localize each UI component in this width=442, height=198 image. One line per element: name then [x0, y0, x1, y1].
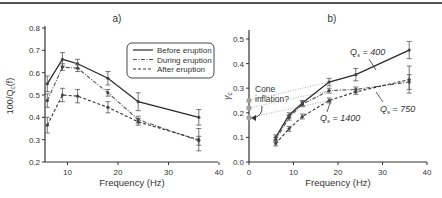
series-line [276, 50, 410, 137]
data-point-marker [301, 115, 304, 118]
annotation-q750: Qs = 750 [376, 92, 415, 115]
q1400-label: Qs = 1400 [320, 113, 360, 124]
data-point-marker [137, 120, 140, 123]
chart-b: b) 0.00.10.20.30.40.5 010203040 Frequenc… [222, 13, 432, 188]
y-tick-label: 0.6 [29, 69, 41, 78]
x-tick-label: 0 [247, 168, 252, 177]
y-tick-label: 0.3 [29, 136, 41, 145]
x-tick-label: 40 [423, 168, 432, 177]
data-point-marker [354, 73, 357, 76]
data-point-marker [46, 124, 49, 127]
data-point-marker [106, 91, 109, 94]
y-tick-label: 0.2 [29, 158, 41, 167]
chart-b-title: b) [328, 13, 337, 24]
data-point-marker [287, 127, 290, 130]
chart-a-legend: Before eruption During eruption After er… [127, 43, 214, 78]
y-tick-label: 0.3 [233, 84, 245, 93]
data-point-marker [328, 89, 331, 92]
data-point-marker [301, 103, 304, 106]
data-point-marker [46, 99, 49, 102]
chart-a-title: a) [113, 13, 122, 24]
x-tick-label: 30 [378, 168, 387, 177]
annotation-cone-inflation: Cone inflation? [251, 84, 289, 121]
chart-b-y-label: γc [222, 91, 233, 100]
y-tick-label: 0.1 [233, 133, 245, 142]
data-point-marker [287, 116, 290, 119]
y-tick-label: 0.5 [233, 35, 245, 44]
legend-during-label: During eruption [157, 56, 212, 65]
figure-canvas: a) 0.20.30.40.50.60.70.8 10203040 Freque… [0, 0, 442, 198]
data-point-marker [137, 100, 140, 103]
intercept-marker [246, 115, 251, 120]
data-point-marker [408, 78, 411, 81]
chart-a: a) 0.20.30.40.50.60.70.8 10203040 Freque… [5, 13, 224, 188]
data-point-marker [354, 90, 357, 93]
annotation-q1400: Qs = 1400 [320, 100, 360, 124]
cone-arrowhead-icon [251, 115, 256, 121]
data-point-marker [76, 95, 79, 98]
data-point-marker [197, 138, 200, 141]
chart-a-x-label: Frequency (Hz) [99, 177, 164, 188]
chart-a-x-ticks: 10203040 [63, 162, 224, 177]
y-tick-label: 0.8 [29, 24, 41, 33]
y-tick-label: 0.2 [233, 109, 245, 118]
data-point-marker [61, 93, 64, 96]
data-point-marker [106, 77, 109, 80]
data-point-marker [274, 142, 277, 145]
data-point-marker [61, 65, 64, 68]
x-tick-label: 40 [215, 168, 224, 177]
intercept-marker [246, 98, 251, 103]
chart-b-x-label: Frequency (Hz) [305, 177, 370, 188]
x-tick-label: 10 [289, 168, 298, 177]
x-tick-label: 10 [63, 168, 72, 177]
data-point-marker [46, 82, 49, 85]
data-point-marker [197, 116, 200, 119]
data-point-marker [76, 67, 79, 70]
legend-after-label: After eruption [157, 65, 205, 74]
annotation-q400: Qs = 400 [350, 47, 385, 70]
q400-label: Qs = 400 [350, 47, 385, 58]
data-point-marker [106, 106, 109, 109]
data-point-marker [328, 80, 331, 83]
data-point-marker [61, 58, 64, 61]
legend-before-label: Before eruption [157, 46, 212, 55]
data-point-marker [408, 48, 411, 51]
chart-b-series [273, 41, 412, 146]
y-tick-label: 0.4 [233, 60, 245, 69]
y-tick-label: 0.5 [29, 91, 41, 100]
x-tick-label: 30 [164, 168, 173, 177]
cone-text-line2: inflation? [255, 94, 289, 104]
chart-b-x-ticks: 010203040 [247, 162, 432, 177]
y-tick-label: 0.7 [29, 46, 41, 55]
chart-a-y-label: 100/Qc(f) [5, 78, 16, 114]
q750-pointer-icon [376, 92, 383, 102]
x-tick-label: 20 [334, 168, 343, 177]
intercept-marker [246, 105, 251, 110]
y-tick-label: 0.0 [233, 158, 245, 167]
chart-a-y-ticks: 0.20.30.40.50.60.70.8 [29, 24, 45, 167]
cone-text-line1: Cone [255, 84, 276, 94]
x-tick-label: 20 [114, 168, 123, 177]
y-tick-label: 0.4 [29, 113, 41, 122]
q750-label: Qs = 750 [380, 104, 415, 115]
